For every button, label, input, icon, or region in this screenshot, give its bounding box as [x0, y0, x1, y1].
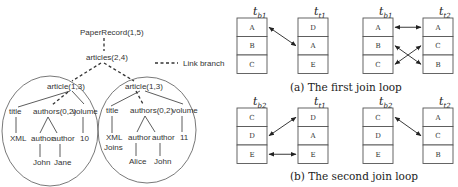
join-link-arrow [269, 117, 296, 136]
table-cell-value: C [435, 132, 440, 140]
table-pair: tb1ABCtt1DAE [237, 5, 328, 74]
right-article-circle [98, 77, 196, 183]
left-article-node: article(1,3) [47, 82, 85, 91]
articles-left-link [72, 63, 101, 81]
table-cell-value: A [434, 24, 441, 32]
join-loop-2: tb2CDEtt1DAEtb2CDEtt2ACB(b) The second j… [237, 95, 453, 182]
figure: PaperRecord(1,5) articles(2,4) Link bran… [0, 0, 458, 187]
right-article-node: article(1,3) [125, 82, 163, 91]
table-cell-value: E [310, 151, 315, 159]
table-cell-value: B [435, 61, 440, 69]
articles-right-link [104, 63, 134, 81]
table-title: tb1 [379, 5, 392, 20]
table-cell-value: A [309, 132, 316, 140]
right-author2-value: John [154, 157, 171, 166]
articles-node: articles(2,4) [86, 53, 128, 62]
right-article-subtree: article(1,3) title authors(0,2) volume X… [98, 77, 198, 183]
root-node: PaperRecord(1,5) [80, 28, 144, 37]
table-cell-value: E [310, 61, 315, 69]
join-loop-1: tb1ABCtt1DAEtb1ABCtt2ACB(a) The first jo… [237, 5, 453, 93]
table-t-b2: tb2CDE [363, 95, 393, 164]
join-loop-caption: (b) The second join loop [290, 170, 418, 182]
left-title-node: title [9, 107, 22, 116]
left-authors-node: authors(0,2) [33, 107, 76, 116]
table-t-t2: tt2ACB [423, 95, 453, 164]
left-title-value: XML [10, 134, 27, 143]
table-cell-value: E [249, 151, 254, 159]
join-link-arrow [395, 117, 421, 136]
right-author1-value: Alice [129, 157, 147, 166]
table-cell-value: D [375, 132, 381, 140]
table-cell-value: D [310, 24, 316, 32]
table-t-t1: tt1DAE [298, 95, 328, 164]
join-loops: tb1ABCtt1DAEtb1ABCtt2ACB(a) The first jo… [237, 5, 453, 182]
table-title: tb2 [253, 95, 267, 110]
table-title: tb2 [379, 95, 393, 110]
table-cell-value: B [435, 151, 440, 159]
table-cell-value: A [374, 24, 381, 32]
edge-link [136, 91, 143, 104]
left-volume-node: volume [72, 107, 98, 116]
left-author1-value: John [33, 158, 50, 167]
table-pair: tb2CDEtt1DAE [237, 95, 328, 164]
legend-label: Link branch [183, 59, 224, 68]
left-author1-node: author [31, 134, 54, 143]
table-cell-value: A [309, 42, 316, 50]
edge [137, 116, 145, 132]
table-pair: tb2CDEtt2ACB [363, 95, 453, 164]
right-volume-node: volume [172, 106, 198, 115]
join-link-arrow [269, 27, 296, 46]
right-title-node: title [106, 106, 119, 115]
table-t-b1: tb1ABC [363, 5, 393, 74]
left-author2-value: Jane [54, 158, 72, 167]
table-title: tb1 [253, 5, 266, 20]
right-authors-node: authors(0,2) [130, 106, 173, 115]
right-title-value-line2: Joins [104, 143, 123, 152]
edge [48, 117, 57, 133]
table-t-b1: tb1ABC [237, 5, 267, 74]
table-cell-value: C [375, 114, 380, 122]
table-cell-value: C [435, 42, 440, 50]
table-cell-value: B [249, 42, 254, 50]
table-title: tt2 [439, 5, 451, 20]
edge [145, 91, 183, 104]
xml-tree: PaperRecord(1,5) articles(2,4) Link bran… [2, 28, 224, 186]
table-t-t1: tt1DAE [298, 5, 328, 74]
right-volume-value: 11 [180, 133, 189, 142]
right-author1-node: author [128, 133, 151, 142]
table-cell-value: B [375, 42, 380, 50]
table-cell-value: D [249, 132, 255, 140]
table-cell-value: C [375, 61, 380, 69]
table-title: tt1 [314, 5, 326, 20]
table-cell-value: C [249, 114, 254, 122]
table-cell-value: A [434, 114, 441, 122]
table-title: tt1 [314, 95, 326, 110]
table-title: tt2 [439, 95, 451, 110]
edge [145, 116, 155, 132]
table-cell-value: C [249, 61, 254, 69]
right-title-value-line1: XML [106, 133, 123, 142]
edge [18, 91, 70, 107]
table-cell-value: A [248, 24, 255, 32]
table-t-t2: tt2ACB [423, 5, 453, 74]
edge [111, 91, 140, 106]
edge [40, 117, 48, 133]
right-author2-node: author [152, 133, 175, 142]
left-article-subtree: article(1,3) title authors(0,2) volume X… [2, 76, 98, 186]
table-t-b2: tb2CDE [237, 95, 267, 164]
table-pair: tb1ABCtt2ACB [363, 5, 453, 74]
left-volume-value: 10 [80, 134, 89, 143]
table-cell-value: D [310, 114, 316, 122]
table-cell-value: E [375, 151, 380, 159]
join-loop-caption: (a) The first join loop [290, 81, 402, 93]
left-author2-node: author [52, 134, 75, 143]
edge [72, 91, 84, 104]
